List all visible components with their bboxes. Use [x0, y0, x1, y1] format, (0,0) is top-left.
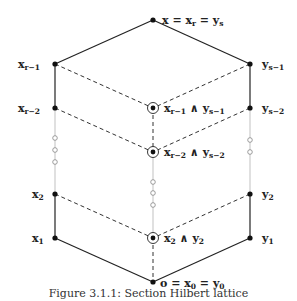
label-x_2: x2: [32, 188, 44, 202]
node-y_s-1: [247, 61, 252, 66]
label-top: x = xr = ys: [162, 14, 223, 28]
label-y_s-1: ys−1: [261, 58, 284, 72]
label-meet_2_2: x2 ∧ y2: [164, 232, 204, 246]
ellipsis-lines: [55, 108, 250, 238]
node-x_2: [52, 191, 57, 196]
label-meet_r-1_s-1: xr−1 ∧ ys−1: [164, 102, 225, 116]
node-top: [150, 17, 155, 22]
node-x_r-2: [52, 105, 57, 110]
node-x_1: [52, 235, 57, 240]
node-x_r-1: [52, 61, 57, 66]
figure-caption: Figure 3.1.1: Section Hilbert lattice: [0, 287, 297, 300]
label-x_r-1: xr−1: [18, 58, 40, 72]
node-meet_2_2: [151, 236, 156, 241]
node-meet_r-1_s-1: [151, 106, 156, 111]
lattice-diagram: x = xr = ys xr−1 xr−2 x2 x1 ys−1 ys−2 y2…: [0, 0, 297, 301]
node-bottom: [150, 279, 155, 284]
dashed-edges: [55, 64, 250, 282]
node-y_1: [247, 235, 252, 240]
label-y_1: y1: [261, 232, 274, 246]
label-x_r-2: xr−2: [18, 102, 40, 116]
label-meet_r-2_s-2: xr−2 ∧ ys−2: [164, 146, 225, 160]
label-y_s-2: ys−2: [261, 102, 284, 116]
label-y_2: y2: [261, 188, 274, 202]
node-y_s-2: [247, 105, 252, 110]
node-y_2: [247, 191, 252, 196]
label-x_1: x1: [32, 232, 44, 246]
node-meet_r-2_s-2: [151, 150, 156, 155]
